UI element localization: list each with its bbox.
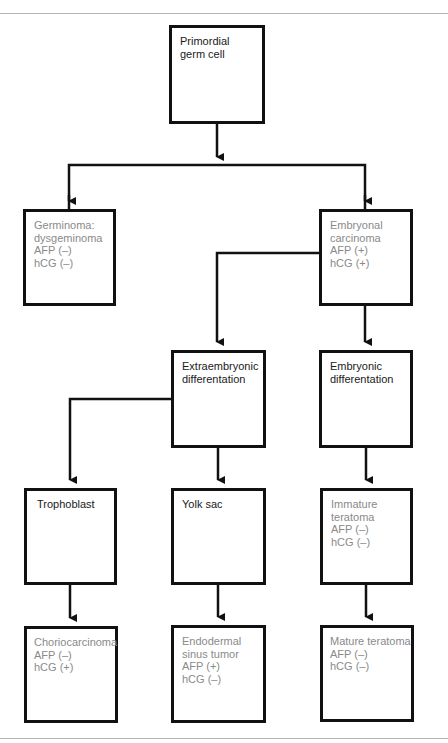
node-germinoma: Germinoma: dysgeminoma AFP (–) hCG (–): [23, 209, 116, 306]
node-immature-teratoma: Immature teratoma AFP (–) hCG (–): [320, 488, 413, 585]
node-mature-teratoma: Mature teratoma AFP (–) hCG (–): [320, 625, 414, 722]
node-trophoblast: Trophoblast: [24, 488, 117, 585]
node-primordial-germ-cell: Primordial germ cell: [169, 25, 265, 124]
node-embryonal-carcinoma: Embryonal carcinoma AFP (+) hCG (+): [319, 209, 413, 306]
arrow-to-extraembryonic: [217, 253, 319, 342]
node-embryonic-differentiation: Embryonic differentation: [319, 350, 413, 448]
arrow-to-trophoblast: [70, 399, 171, 480]
node-extraembryonic-differentiation: Extraembryonic differentation: [171, 350, 266, 448]
node-endodermal-sinus-tumor: Endodermal sinus tumor AFP (+) hCG (–): [171, 625, 266, 723]
split-line: [69, 165, 365, 209]
node-choriocarcinoma: Choriocarcinoma AFP (–) hCG (+): [24, 626, 118, 723]
node-yolk-sac: Yolk sac: [171, 488, 266, 585]
